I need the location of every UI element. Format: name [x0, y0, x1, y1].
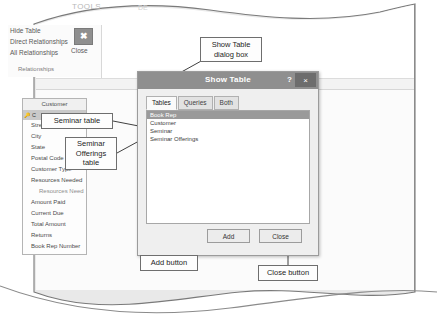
ribbon-close-button[interactable]: ✖ — [74, 28, 93, 45]
field-list-item[interactable]: Resources Needed — [23, 175, 86, 186]
field-list-subitem[interactable]: Resources Need — [23, 186, 86, 197]
dialog-body: Tables Queries Both Book Rep Customer Se… — [138, 89, 318, 255]
field-list-item[interactable]: Current Due — [23, 208, 86, 219]
field-list-item[interactable]: Book Rep Number — [23, 241, 86, 252]
list-item[interactable]: Customer — [147, 119, 309, 127]
list-item[interactable]: Seminar — [147, 127, 309, 135]
dialog-tabs: Tables Queries Both — [146, 96, 240, 110]
ribbon-item-hide-table[interactable]: Hide Table — [10, 27, 41, 34]
field-list-item[interactable]: Total Amount — [23, 219, 86, 230]
close-button[interactable]: Close — [259, 229, 302, 243]
tab-both[interactable]: Both — [214, 96, 239, 110]
field-list-item[interactable]: Amount Paid — [23, 197, 86, 208]
dialog-button-row: Add Close — [138, 229, 318, 249]
ribbon-item-all-relationships[interactable]: All Relationships — [10, 49, 58, 56]
tab-tables[interactable]: Tables — [146, 96, 177, 110]
ribbon-close-button-label: Close — [71, 47, 88, 54]
close-x-icon: ✖ — [80, 32, 88, 41]
ribbon-tab-design-label[interactable]: DE — [138, 4, 148, 11]
callout-seminar-offerings-table: SeminarOfferingstable — [65, 137, 117, 170]
list-item[interactable]: Seminar Offerings — [147, 135, 309, 143]
ribbon-item-direct-relationships[interactable]: Direct Relationships — [10, 38, 68, 45]
field-list-title: Customer — [23, 99, 86, 111]
ribbon-tab-tools-label[interactable]: TOOLS — [72, 2, 101, 11]
tab-queries[interactable]: Queries — [178, 96, 213, 110]
callout-close-button: Close button — [258, 265, 318, 281]
show-table-dialog: Show Table ? × Tables Queries Both Book … — [137, 71, 319, 256]
callout-seminar-table: Seminar table — [41, 113, 113, 129]
screenshot-root: TOOLS DE Hide Table Direct Relationships… — [0, 0, 437, 316]
dialog-close-icon[interactable]: × — [295, 73, 316, 87]
field-list-item[interactable]: Returns — [23, 230, 86, 241]
table-listbox[interactable]: Book Rep Customer Seminar Seminar Offeri… — [146, 110, 310, 224]
add-button[interactable]: Add — [207, 229, 250, 243]
list-item[interactable]: Book Rep — [147, 111, 309, 119]
callout-show-table-dialog: Show Tabledialog box — [200, 37, 262, 62]
dialog-titlebar[interactable]: Show Table ? × — [138, 72, 318, 89]
help-icon[interactable]: ? — [287, 75, 292, 84]
callout-add-button: Add button — [140, 255, 198, 271]
ribbon-group-label: Relationships — [18, 66, 54, 72]
